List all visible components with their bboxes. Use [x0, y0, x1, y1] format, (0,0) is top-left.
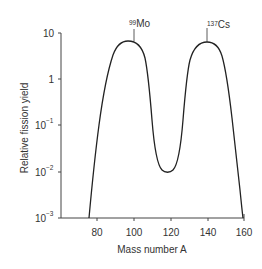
x-tick-160: 160: [236, 227, 253, 238]
x-tick-120: 120: [163, 227, 180, 238]
mo99-label: 99Mo: [129, 18, 151, 29]
y-tick-1: 1: [48, 74, 54, 85]
y-tick-1e-3: 10: [35, 213, 47, 224]
y-tick-labels: 10 1 10 −1 10 −2 10 −3: [35, 28, 55, 224]
y-axis-label: Relative fission yield: [19, 83, 30, 174]
x-tick-labels: 80 100 120 140 160: [91, 227, 252, 238]
y-tick-1e-2: 10: [35, 167, 47, 178]
y-tick-1e-2-exp: −2: [46, 164, 54, 171]
y-tick-1e-1: 10: [35, 120, 47, 131]
x-tick-80: 80: [91, 227, 103, 238]
fission-yield-chart: 10 1 10 −1 10 −2 10 −3 80 100 120 140 16…: [0, 0, 262, 269]
y-tick-1e-1-exp: −1: [46, 117, 54, 124]
y-tick-1e-3-exp: −3: [46, 210, 54, 217]
x-tick-100: 100: [126, 227, 143, 238]
y-tick-10: 10: [43, 28, 55, 39]
x-tick-140: 140: [200, 227, 217, 238]
cs137-label: 137Cs: [207, 19, 230, 30]
yield-curve: [89, 41, 243, 218]
x-axis-label: Mass number A: [117, 244, 187, 255]
